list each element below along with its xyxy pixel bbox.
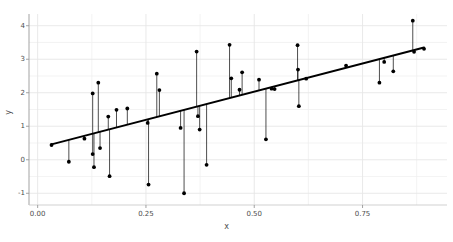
data-point: [411, 19, 415, 23]
data-point: [297, 104, 301, 108]
y-tick-label: 0: [12, 156, 25, 164]
scatter-plot-figure: x y 0.000.250.500.75 -101234: [0, 0, 453, 242]
data-point: [391, 69, 395, 73]
data-point: [98, 146, 102, 150]
data-point: [273, 87, 277, 91]
data-point: [155, 72, 159, 76]
data-point: [83, 137, 87, 141]
x-tick-label: 0.25: [138, 210, 154, 218]
y-tick-label: -1: [12, 189, 25, 197]
data-point: [412, 50, 416, 54]
data-point: [264, 137, 268, 141]
data-point: [238, 88, 242, 92]
data-point: [304, 77, 308, 81]
y-tick-label: 3: [12, 55, 25, 63]
residual-segments: [52, 21, 425, 194]
data-point: [91, 152, 95, 156]
y-axis-title: y: [4, 110, 13, 115]
data-point: [382, 60, 386, 64]
data-point: [115, 108, 119, 112]
plot-canvas: [0, 0, 453, 242]
data-point: [296, 68, 300, 72]
data-point: [205, 163, 209, 167]
data-point: [125, 107, 129, 111]
data-point: [195, 50, 199, 54]
data-point: [296, 43, 300, 47]
axis-tickmarks: [26, 26, 363, 208]
data-point: [179, 126, 183, 130]
data-point: [157, 88, 161, 92]
data-point: [229, 76, 233, 80]
data-point: [96, 81, 100, 85]
x-tick-label: 0.00: [30, 210, 46, 218]
data-point: [198, 128, 202, 132]
data-point: [91, 92, 95, 96]
data-points: [50, 19, 426, 195]
data-point: [240, 70, 244, 74]
data-point: [182, 191, 186, 195]
data-point: [196, 114, 200, 118]
data-point: [50, 143, 54, 147]
data-point: [147, 183, 151, 187]
data-point: [108, 174, 112, 178]
y-tick-label: 1: [12, 122, 25, 130]
minor-gridlines: [29, 14, 447, 205]
regression-line: [52, 48, 425, 145]
data-point: [146, 121, 150, 125]
data-point: [92, 165, 96, 169]
y-tick-label: 2: [12, 89, 25, 97]
x-tick-label: 0.75: [355, 210, 371, 218]
data-point: [257, 78, 261, 82]
x-tick-label: 0.50: [246, 210, 262, 218]
data-point: [422, 47, 426, 51]
y-tick-label: 4: [12, 22, 25, 30]
x-axis-title: x: [0, 222, 453, 231]
data-point: [344, 64, 348, 68]
data-point: [106, 115, 110, 119]
data-point: [228, 43, 232, 47]
data-point: [378, 81, 382, 85]
data-point: [67, 160, 71, 164]
